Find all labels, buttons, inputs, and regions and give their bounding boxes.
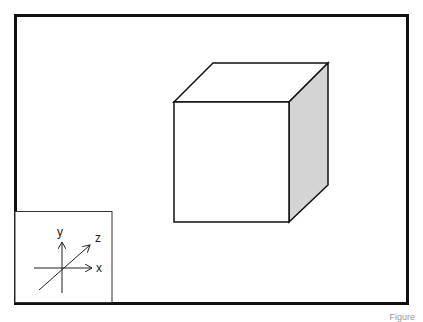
cube-front-face bbox=[174, 102, 289, 222]
z-axis-label: z bbox=[95, 231, 101, 245]
axes-inset-box bbox=[15, 212, 112, 303]
figure-caption: Figure bbox=[389, 312, 415, 322]
axes-inset: x y z bbox=[15, 212, 112, 303]
diagram-canvas: x y z bbox=[0, 0, 423, 322]
y-axis-label: y bbox=[57, 225, 63, 239]
x-axis-label: x bbox=[96, 261, 102, 275]
cube bbox=[174, 63, 328, 222]
